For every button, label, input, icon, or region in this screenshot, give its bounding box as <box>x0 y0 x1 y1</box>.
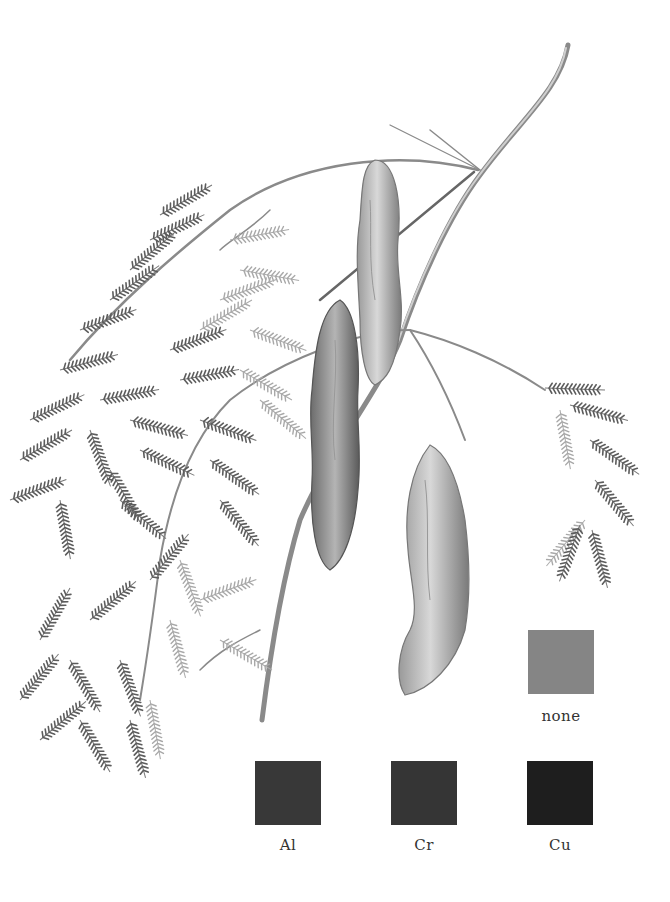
swatch-label-cr: Cr <box>374 836 474 854</box>
swatch-cr <box>391 761 457 825</box>
swatch-label-al: Al <box>238 836 338 854</box>
swatch-cu <box>527 761 593 825</box>
botanical-illustration <box>0 0 670 902</box>
foliage-background <box>145 225 309 760</box>
swatch-label-none: none <box>511 707 611 725</box>
pod-upper <box>357 160 401 385</box>
swatch-none <box>528 630 594 694</box>
pod-lower <box>399 445 469 695</box>
foliage-left <box>8 181 262 780</box>
foliage-right <box>543 383 642 589</box>
seed-pods <box>311 160 469 695</box>
swatch-label-cu: Cu <box>510 836 610 854</box>
swatch-al <box>255 761 321 825</box>
